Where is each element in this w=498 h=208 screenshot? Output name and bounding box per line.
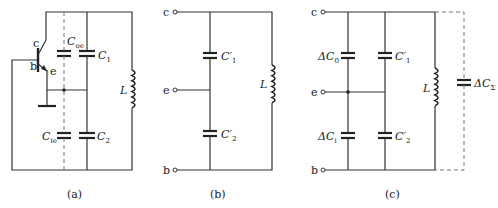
top-wire [325, 12, 435, 68]
c2p-label: C′2 [221, 128, 236, 143]
junction-dot [346, 90, 350, 94]
inductor-icon [272, 65, 275, 103]
terminal-c-icon [321, 10, 325, 14]
dc0-label: ΔC0 [317, 50, 339, 65]
terminal-b-label: b [311, 164, 318, 177]
emitter-label: e [50, 65, 57, 78]
terminal-e-icon [173, 88, 177, 92]
dcsum-label: ΔCΣ [473, 77, 495, 92]
collector-label: c [33, 37, 39, 50]
caption-b: (b) [210, 188, 226, 201]
dc1-label: ΔCi [317, 130, 337, 145]
c2-label: C2 [97, 130, 110, 145]
terminal-c-icon [173, 10, 177, 14]
dcsum-dashed-wire [435, 85, 464, 170]
c2p-label: C′2 [395, 130, 410, 145]
terminal-e-icon [321, 90, 325, 94]
inductor-icon [435, 68, 438, 106]
c1p-label: C′1 [395, 50, 410, 65]
terminal-e-label: e [163, 84, 170, 97]
c1p-label: C′1 [221, 50, 236, 65]
terminal-e-label: e [311, 86, 318, 99]
panel-b: c e b C′1 C′2 L (b) [163, 6, 275, 201]
terminal-c-label: c [311, 6, 317, 19]
inductor-label: L [422, 82, 430, 95]
terminal-c-label: c [163, 6, 169, 19]
cie-label: Cie [42, 130, 57, 145]
junction-dot [62, 88, 66, 92]
terminal-b-icon [173, 168, 177, 172]
base-label: b [30, 60, 37, 73]
circuit-figure: c b e Coe C1 Cie C2 L (a) c e [0, 0, 498, 208]
bottom-loop-wire [12, 60, 132, 170]
caption-c: (c) [385, 188, 400, 201]
coe-label: Coe [67, 35, 84, 50]
terminal-b-icon [321, 168, 325, 172]
transistor-icon [38, 40, 47, 72]
caption-a: (a) [67, 188, 82, 201]
c1-label: C1 [98, 49, 111, 64]
terminal-b-label: b [163, 164, 170, 177]
inductor-label: L [259, 78, 267, 91]
panel-c: c e b ΔC0 ΔCi C′1 C′2 L ΔCΣ (c) [311, 6, 495, 201]
top-wire [46, 12, 132, 70]
panel-a: c b e Coe C1 Cie C2 L (a) [12, 12, 135, 201]
dcsum-dashed-wire [435, 12, 464, 80]
inductor-label: L [119, 84, 127, 97]
inductor-icon [132, 70, 135, 108]
